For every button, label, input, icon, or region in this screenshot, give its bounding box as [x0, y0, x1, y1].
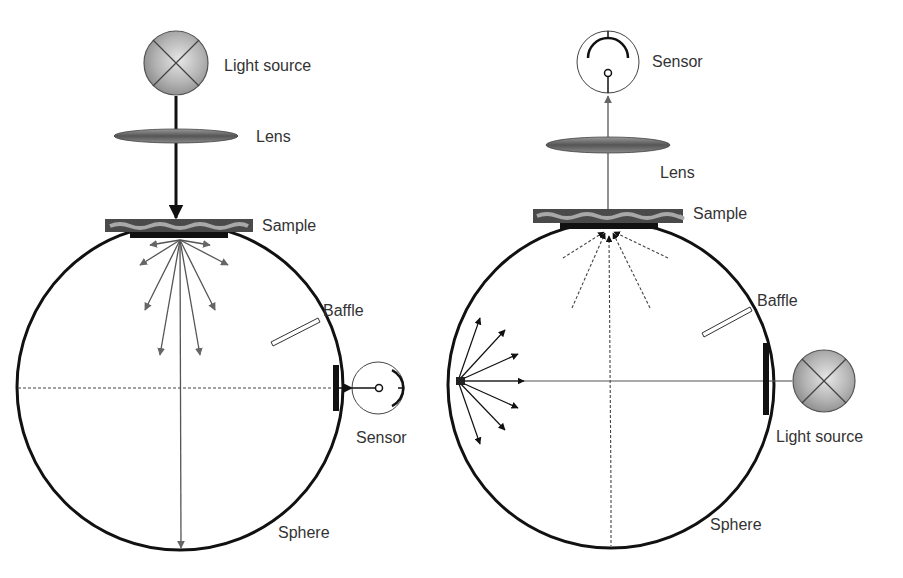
diffuse-rays-left-wall	[458, 318, 524, 444]
label-sphere-right: Sphere	[710, 516, 762, 533]
sphere-outline-right	[448, 222, 774, 548]
sample-icon	[105, 219, 253, 238]
label-light-source-right: Light source	[776, 428, 863, 445]
label-sample: Sample	[262, 217, 316, 234]
light-source-lamp-icon	[144, 31, 208, 95]
label-lens-right: Lens	[660, 164, 695, 181]
label-sample-right: Sample	[693, 205, 747, 222]
light-source-lamp-icon-right	[793, 350, 855, 412]
label-baffle-right: Baffle	[757, 292, 798, 309]
sensor-icon	[352, 362, 404, 414]
sensor-icon-top	[577, 31, 639, 93]
label-sensor: Sensor	[356, 429, 407, 446]
left-panel-reflectance: Light source Lens Sample	[17, 31, 407, 550]
converging-dashed-rays	[563, 232, 668, 546]
label-light-source: Light source	[224, 57, 311, 74]
label-lens: Lens	[256, 128, 291, 145]
illuminated-spot	[456, 377, 465, 385]
label-sphere: Sphere	[278, 524, 330, 541]
lens-icon-right	[546, 137, 670, 153]
baffle-icon-right	[702, 307, 752, 337]
label-baffle: Baffle	[323, 302, 364, 319]
lens-icon	[114, 129, 238, 143]
diagram-canvas: Light source Lens Sample	[0, 0, 903, 578]
reflected-rays	[140, 240, 228, 548]
right-panel-transmittance: Sensor Lens Sample	[448, 31, 863, 548]
baffle-icon	[271, 318, 320, 346]
sample-icon-right	[533, 209, 683, 229]
light-port	[763, 343, 769, 415]
label-sensor-top: Sensor	[652, 53, 703, 70]
